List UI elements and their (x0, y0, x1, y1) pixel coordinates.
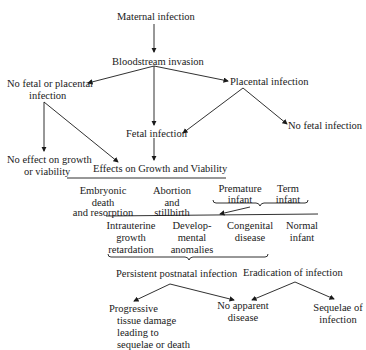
node-premature-line1: Premature (215, 183, 265, 194)
node-progressive-line3: leading to (117, 327, 159, 338)
node-no-apparent-line2: disease (215, 312, 271, 323)
node-effects-title: Effects on Growth and Viability (93, 163, 227, 174)
node-normal-line2: infant (284, 232, 320, 243)
node-term-line1: Term (270, 183, 306, 194)
node-embryonic-line3: and resorption (66, 207, 140, 218)
node-congenital-line2: disease (227, 232, 273, 243)
node-eradication-of-infection: Eradication of infection (243, 267, 343, 278)
arrow-eradication-to-no-apparent (252, 282, 295, 300)
arrow-infants-to-outcomes (220, 207, 250, 214)
node-bloodstream-invasion: Bloodstream invasion (112, 56, 204, 67)
node-developmental-line2: mental (170, 232, 214, 243)
node-iugr-line3: retardation (106, 244, 156, 255)
node-developmental-line1: Develop- (170, 220, 214, 231)
node-abortion-line3: stillbirth (149, 207, 195, 218)
node-sequelae-line2: infection (313, 314, 363, 325)
node-congenital-line1: Congenital (227, 220, 273, 231)
node-iugr-line1: Intrauterine (106, 220, 156, 231)
arrow-persistent-to-no-apparent (170, 284, 234, 300)
arrow-placental-to-fetal (183, 88, 243, 133)
node-no-apparent-line1: No apparent (215, 300, 271, 311)
node-no-fetal-infection: No fetal infection (288, 120, 362, 131)
node-no-fetal-placental-line1: No fetal or placental (7, 78, 93, 89)
node-normal-line1: Normal (284, 220, 320, 231)
arrow-persistent-to-progressive (134, 284, 170, 301)
arrow-eradication-to-sequelae (295, 282, 334, 299)
node-embryonic-line1: Embryonic (74, 185, 132, 196)
node-progressive-line4: sequelae or death (117, 339, 190, 350)
node-placental-infection: Placental infection (230, 76, 308, 87)
arrow-placental-to-no-fetal (243, 88, 287, 124)
node-iugr-line2: growth (106, 232, 156, 243)
node-term-line2: infant (270, 194, 306, 205)
arrow-bloodstream-to-no-fetal-placental (88, 66, 154, 83)
node-maternal-infection: Maternal infection (117, 11, 195, 22)
arrow-no-fetal-placental-to-effects (44, 102, 118, 162)
node-no-effect-line1: No effect on growth (7, 154, 92, 165)
node-persistent-postnatal-infection: Persistent postnatal infection (116, 268, 237, 279)
arrow-bloodstream-to-placental (154, 66, 228, 81)
node-progressive-line1: Progressive (109, 303, 158, 314)
node-no-effect-line2: or viability (24, 166, 70, 177)
node-abortion-line1: Abortion (149, 185, 195, 196)
node-premature-line2: infant (215, 194, 265, 205)
node-no-fetal-placental-line2: infection (29, 90, 66, 101)
node-sequelae-line1: Sequelae of (313, 302, 363, 313)
node-fetal-infection: Fetal infection (126, 128, 187, 139)
node-progressive-line2: tissue damage (117, 315, 176, 326)
node-developmental-line3: anomalies (170, 244, 214, 255)
